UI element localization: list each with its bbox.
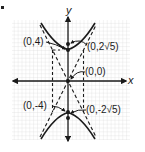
y-axis-label: y [66, 5, 72, 16]
vertex-top-label: (0,4) [23, 37, 44, 47]
focus-bottom-label: (0,-2√5) [86, 105, 121, 115]
center-label: (0,0) [85, 67, 106, 77]
focus-top-point [66, 42, 70, 46]
vertex-bottom-label: (0,-4) [23, 101, 47, 111]
vertex-bottom-point [66, 110, 70, 114]
focus-top-label: (0,2√5) [87, 42, 119, 52]
x-axis-label: x [128, 75, 134, 86]
list-bullet-mark [1, 6, 4, 9]
center-point [66, 79, 70, 83]
hyperbola-graph [0, 0, 145, 152]
focus-bottom-point [66, 116, 70, 120]
vertex-top-point [66, 48, 70, 52]
